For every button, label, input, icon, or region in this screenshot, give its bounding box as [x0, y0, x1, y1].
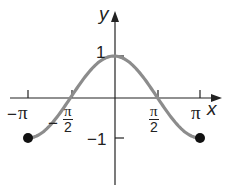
cosine-graph: y x 1 −1 − π − π 2 π 2 π [0, 0, 229, 190]
x-axis-label: x [207, 99, 217, 118]
y-axis-arrow-icon [111, 11, 119, 22]
x-tick-label-half-pi: π 2 [149, 104, 159, 134]
x-tick-label-neg-pi: π [18, 103, 28, 122]
y-tick-label-neg-1: −1 [87, 131, 106, 148]
endpoint-right [195, 133, 205, 143]
fraction-denominator: 2 [63, 120, 73, 134]
endpoint-left [23, 133, 33, 143]
y-axis-label: y [99, 4, 109, 23]
fraction-numerator: π [63, 104, 73, 120]
plot-area [0, 0, 229, 190]
fraction-numerator: π [149, 104, 159, 120]
x-tick-label-neg-half-pi-sign: − [48, 115, 58, 132]
fraction-denominator: 2 [149, 120, 159, 134]
y-tick-label-1: 1 [96, 44, 105, 61]
x-tick-label-pi: π [191, 103, 201, 122]
x-tick-label-neg-half-pi: π 2 [63, 104, 73, 134]
x-tick-label-neg-pi-sign: − [7, 106, 17, 123]
